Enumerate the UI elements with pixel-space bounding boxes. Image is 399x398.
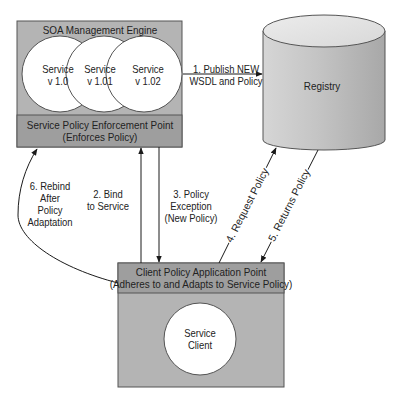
registry-label: Registry	[304, 80, 340, 92]
bind-label-line2: to Service	[87, 200, 129, 212]
service-label-line2: v 1.01	[84, 75, 116, 87]
service-label-line1: Service	[42, 63, 74, 75]
rebind-label-line4: Adaptation	[27, 216, 72, 228]
application-point-subtitle: (Adheres to and Adapts to Service Policy…	[110, 278, 293, 290]
rebind-label: 6. Rebind After Policy Adaptation	[27, 180, 72, 228]
publish-label-line1: 1. Publish NEW	[189, 63, 262, 75]
service-client-label: Service Client	[184, 327, 216, 351]
service-v1-01-label: Service v 1.01	[84, 63, 116, 87]
exception-label-line1: 3. Policy	[164, 188, 217, 200]
service-client-line2: Client	[184, 339, 216, 351]
rebind-label-line1: 6. Rebind	[27, 180, 72, 192]
rebind-label-line3: Policy	[27, 204, 72, 216]
publish-label: 1. Publish NEW WSDL and Policy	[189, 63, 262, 87]
bind-label: 2. Bind to Service	[87, 188, 129, 212]
client-application-point-label: Client Policy Application Point (Adheres…	[110, 266, 293, 290]
service-v1-0-label: Service v 1.0	[42, 63, 74, 87]
exception-label-line2: Exception	[164, 200, 217, 212]
exception-label: 3. Policy Exception (New Policy)	[164, 188, 217, 224]
enforcement-point-subtitle: (Enforces Policy)	[27, 131, 173, 143]
service-v1-02-label: Service v 1.02	[132, 63, 164, 87]
bind-label-line1: 2. Bind	[87, 188, 129, 200]
service-label-line2: v 1.0	[42, 75, 74, 87]
service-label-line1: Service	[132, 63, 164, 75]
publish-label-line2: WSDL and Policy	[189, 75, 262, 87]
service-label-line2: v 1.02	[132, 75, 164, 87]
rebind-label-line2: After	[27, 192, 72, 204]
enforcement-point-title: Service Policy Enforcement Point	[27, 119, 173, 131]
exception-label-line3: (New Policy)	[164, 212, 217, 224]
soa-engine-title: SOA Management Engine	[43, 24, 157, 36]
enforcement-point-label: Service Policy Enforcement Point (Enforc…	[27, 119, 173, 143]
application-point-title: Client Policy Application Point	[110, 266, 293, 278]
service-label-line1: Service	[84, 63, 116, 75]
service-client-line1: Service	[184, 327, 216, 339]
